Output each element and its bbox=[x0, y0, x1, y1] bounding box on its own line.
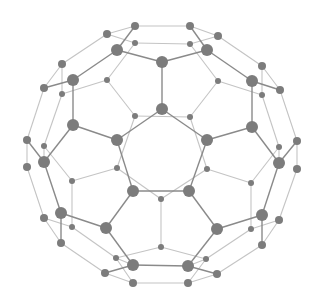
atom bbox=[156, 56, 168, 68]
atom bbox=[40, 84, 48, 92]
bond bbox=[105, 273, 133, 283]
bond bbox=[190, 81, 218, 117]
bond bbox=[262, 95, 279, 147]
bond bbox=[161, 169, 207, 199]
bond bbox=[135, 43, 190, 44]
atom bbox=[276, 144, 282, 150]
bond bbox=[107, 34, 135, 43]
atom bbox=[69, 178, 75, 184]
bond bbox=[107, 26, 135, 34]
atom bbox=[131, 22, 139, 30]
atom bbox=[293, 137, 301, 145]
atom bbox=[158, 244, 164, 250]
atom bbox=[103, 30, 111, 38]
atom bbox=[69, 224, 75, 230]
bond bbox=[207, 169, 251, 183]
bond bbox=[72, 168, 117, 181]
bond bbox=[62, 34, 107, 64]
atom bbox=[213, 270, 221, 278]
atom bbox=[275, 216, 283, 224]
atom bbox=[111, 134, 123, 146]
bond bbox=[161, 247, 206, 259]
atom bbox=[204, 166, 210, 172]
atom bbox=[67, 119, 79, 131]
atom bbox=[258, 241, 266, 249]
atom bbox=[67, 74, 79, 86]
bond bbox=[106, 191, 133, 228]
bond bbox=[27, 167, 44, 218]
atom bbox=[248, 226, 254, 232]
atom bbox=[132, 113, 138, 119]
atom bbox=[246, 121, 258, 133]
bond bbox=[135, 116, 190, 117]
atom bbox=[104, 77, 110, 83]
atom bbox=[214, 32, 222, 40]
atom bbox=[256, 209, 268, 221]
atom bbox=[57, 239, 65, 247]
bond bbox=[117, 140, 133, 191]
bond bbox=[280, 90, 297, 141]
bond bbox=[252, 127, 279, 163]
bond bbox=[117, 168, 161, 199]
bond bbox=[189, 191, 217, 229]
atom bbox=[215, 78, 221, 84]
bond bbox=[27, 88, 44, 140]
atom bbox=[201, 134, 213, 146]
bond bbox=[262, 220, 279, 245]
bond bbox=[251, 220, 279, 229]
atom bbox=[187, 114, 193, 120]
atom bbox=[203, 256, 209, 262]
atom bbox=[23, 136, 31, 144]
atom bbox=[132, 40, 138, 46]
atom bbox=[100, 222, 112, 234]
atom bbox=[258, 62, 266, 70]
atom bbox=[293, 165, 301, 173]
bond bbox=[162, 50, 207, 62]
molecule-svg bbox=[0, 0, 323, 306]
atom bbox=[41, 143, 47, 149]
atom bbox=[211, 223, 223, 235]
bond bbox=[188, 274, 217, 283]
bond bbox=[217, 245, 262, 274]
atom bbox=[40, 214, 48, 222]
atom bbox=[273, 157, 285, 169]
bond bbox=[116, 247, 161, 258]
atom bbox=[156, 103, 168, 115]
atom bbox=[187, 41, 193, 47]
fullerene-diagram bbox=[0, 0, 323, 306]
bond bbox=[262, 163, 279, 215]
bond bbox=[189, 140, 207, 191]
atom bbox=[113, 255, 119, 261]
bond bbox=[217, 215, 262, 229]
bond bbox=[107, 80, 135, 116]
bond bbox=[44, 162, 61, 213]
atom bbox=[58, 60, 66, 68]
bond bbox=[44, 125, 73, 162]
bond bbox=[44, 218, 61, 243]
atom bbox=[127, 259, 139, 271]
atom bbox=[127, 185, 139, 197]
bond bbox=[279, 169, 297, 220]
atom bbox=[158, 196, 164, 202]
bond bbox=[44, 94, 62, 146]
atom bbox=[129, 279, 137, 287]
bond bbox=[61, 243, 105, 273]
atom bbox=[114, 165, 120, 171]
atom bbox=[186, 22, 194, 30]
bond bbox=[44, 218, 72, 227]
bond bbox=[117, 50, 162, 62]
atom bbox=[246, 75, 258, 87]
atom bbox=[182, 260, 194, 272]
atom bbox=[248, 180, 254, 186]
atom bbox=[111, 44, 123, 56]
bond bbox=[190, 36, 218, 44]
bond bbox=[162, 109, 207, 140]
atom bbox=[101, 269, 109, 277]
bond bbox=[117, 109, 162, 140]
atom bbox=[38, 156, 50, 168]
atom bbox=[59, 91, 65, 97]
atom bbox=[55, 207, 67, 219]
bond bbox=[133, 265, 188, 266]
atom bbox=[184, 279, 192, 287]
atom bbox=[276, 86, 284, 94]
